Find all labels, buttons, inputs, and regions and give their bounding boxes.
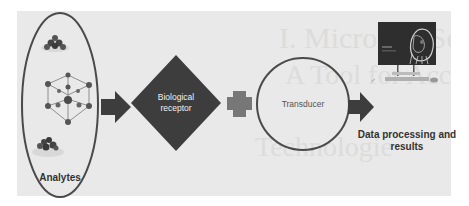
analytes-label: Analytes bbox=[34, 172, 86, 183]
molecule-icon-cage bbox=[45, 73, 92, 126]
data-processing-label: Data processing and results bbox=[357, 129, 457, 153]
molecule-icon-bottom bbox=[32, 137, 64, 157]
computer-icon bbox=[371, 22, 438, 83]
arrow-icon-1 bbox=[101, 91, 131, 123]
molecule-icon-top bbox=[41, 35, 69, 52]
plus-icon bbox=[227, 91, 252, 117]
arrow-icon-2 bbox=[348, 92, 374, 122]
data-processing-label-line2: results bbox=[357, 141, 457, 153]
biological-receptor-label-line2: receptor bbox=[141, 103, 211, 114]
biological-receptor-label: Biological receptor bbox=[141, 92, 211, 114]
biological-receptor-label-line1: Biological bbox=[141, 92, 211, 103]
transducer-label: Transducer bbox=[268, 99, 338, 109]
data-processing-label-line1: Data processing and bbox=[357, 129, 457, 141]
